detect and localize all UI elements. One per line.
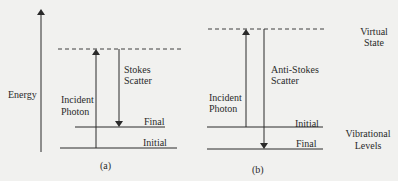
panel-a-scatter-label-1: Stokes bbox=[124, 64, 151, 75]
raman-scattering-diagram: Energy Incident Photon Stokes Scatter Fi… bbox=[0, 0, 398, 181]
panel-b-scatter-label-2: Scatter bbox=[271, 75, 299, 86]
panel-a-initial-level-label: Initial bbox=[143, 137, 167, 148]
panel-a-incident-label-2: Photon bbox=[61, 106, 89, 117]
panel-a-scatter-label-2: Scatter bbox=[124, 75, 152, 86]
vibrational-levels-label-2: Levels bbox=[338, 140, 398, 151]
panel-b-caption: (b) bbox=[252, 164, 264, 175]
panel-b-final-level-label: Final bbox=[296, 138, 317, 149]
panel-a-final-level-label: Final bbox=[144, 116, 165, 127]
vibrational-levels-label-1: Vibrational bbox=[338, 128, 398, 139]
panel-b-incident-label-1: Incident bbox=[209, 92, 242, 103]
virtual-state-label-1: Virtual bbox=[352, 26, 396, 37]
diagram-lines bbox=[0, 0, 398, 181]
panel-b-scatter-label-1: Anti-Stokes bbox=[271, 64, 319, 75]
virtual-state-label-2: State bbox=[352, 37, 396, 48]
panel-a-caption: (a) bbox=[100, 160, 111, 171]
panel-b-incident-label-2: Photon bbox=[209, 103, 237, 114]
panel-b-initial-level-label: Initial bbox=[295, 118, 319, 129]
energy-label: Energy bbox=[8, 89, 37, 100]
panel-a-incident-label-1: Incident bbox=[61, 94, 94, 105]
